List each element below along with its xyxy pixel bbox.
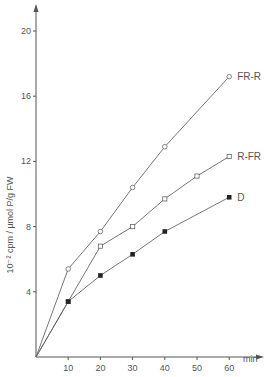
x-axis-label: min	[243, 354, 258, 364]
open-circle-marker-icon	[163, 144, 168, 149]
open-square-marker-icon	[98, 244, 102, 248]
x-tick-label: 30	[128, 363, 138, 373]
series-label: D	[237, 192, 244, 203]
x-tick-label: 20	[95, 363, 105, 373]
filled-square-marker-icon	[227, 195, 232, 200]
series-fr-r: FR-R	[36, 71, 261, 357]
filled-square-marker-icon	[98, 273, 103, 278]
x-tick-label: 40	[160, 363, 170, 373]
axes: 48121620102030405060	[21, 4, 264, 373]
y-tick-label: 16	[21, 91, 31, 101]
series-d: D	[36, 192, 244, 357]
series-r-fr: R-FR	[36, 151, 261, 357]
open-square-marker-icon	[195, 174, 199, 178]
series-group: FR-RR-FRD	[36, 71, 261, 357]
x-tick-label: 60	[224, 363, 234, 373]
filled-square-marker-icon	[163, 229, 168, 234]
open-square-marker-icon	[227, 154, 231, 158]
open-circle-marker-icon	[227, 74, 232, 79]
open-circle-marker-icon	[98, 229, 103, 234]
series-line	[36, 77, 229, 357]
line-chart: 48121620102030405060 FR-RR-FRD 10⁻² cpm …	[0, 0, 268, 377]
y-tick-label: 4	[26, 287, 31, 297]
x-tick-label: 10	[63, 363, 73, 373]
y-tick-label: 8	[26, 222, 31, 232]
y-tick-label: 12	[21, 156, 31, 166]
y-axis-arrow-icon	[34, 4, 39, 12]
series-label: FR-R	[237, 71, 261, 82]
filled-square-marker-icon	[66, 299, 71, 304]
y-tick-label: 20	[21, 26, 31, 36]
open-circle-marker-icon	[130, 185, 135, 190]
open-square-marker-icon	[131, 225, 135, 229]
x-tick-label: 50	[192, 363, 202, 373]
open-circle-marker-icon	[66, 267, 71, 272]
filled-square-marker-icon	[130, 252, 135, 257]
series-label: R-FR	[237, 151, 261, 162]
y-axis-label: 10⁻² cpm / µmol P/g FW	[5, 176, 15, 274]
open-square-marker-icon	[163, 197, 167, 201]
